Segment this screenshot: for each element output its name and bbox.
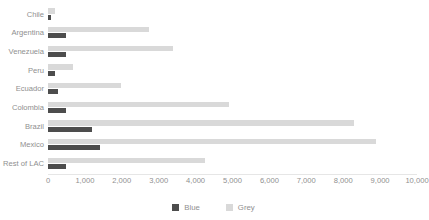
bar-group bbox=[48, 99, 417, 118]
legend-label: Blue bbox=[184, 203, 200, 212]
category-label: Argentina bbox=[0, 28, 44, 37]
legend-swatch-icon bbox=[226, 204, 233, 211]
bar-blue bbox=[48, 89, 58, 94]
x-axis-tick-labels: 01,0002,0003,0004,0005,0006,0007,0008,00… bbox=[48, 176, 417, 188]
legend-swatch-icon bbox=[172, 204, 179, 211]
bar-blue bbox=[48, 145, 100, 150]
bar-blue bbox=[48, 71, 55, 76]
bar-grey bbox=[48, 158, 205, 163]
x-tick-label: 7,000 bbox=[297, 176, 316, 186]
bar-blue bbox=[48, 108, 66, 113]
bar-blue bbox=[48, 127, 92, 132]
legend-item[interactable]: Blue bbox=[172, 203, 200, 212]
x-tick-label: 1,000 bbox=[75, 176, 94, 186]
bar-group bbox=[48, 137, 417, 156]
x-tick-label: 8,000 bbox=[334, 176, 353, 186]
category-label: Rest of LAC bbox=[0, 159, 44, 168]
bar-group bbox=[48, 62, 417, 81]
x-tick-label: 10,000 bbox=[405, 176, 428, 186]
category-label: Colombia bbox=[0, 103, 44, 112]
bar-group bbox=[48, 118, 417, 137]
category-label: Venezuela bbox=[0, 47, 44, 56]
x-tick-label: 3,000 bbox=[149, 176, 168, 186]
bar-grey bbox=[48, 46, 173, 51]
x-tick-label: 9,000 bbox=[371, 176, 390, 186]
bar-grey bbox=[48, 139, 376, 144]
bar-blue bbox=[48, 33, 66, 38]
category-label: Brazil bbox=[0, 122, 44, 131]
category-axis-labels: ChileArgentinaVenezuelaPeruEcuadorColomb… bbox=[0, 6, 44, 174]
category-label: Peru bbox=[0, 66, 44, 75]
x-tick-label: 2,000 bbox=[112, 176, 131, 186]
bar-grey bbox=[48, 102, 229, 107]
legend-label: Grey bbox=[238, 203, 255, 212]
x-axis-line bbox=[48, 174, 417, 175]
bar-blue bbox=[48, 164, 66, 169]
bar-grey bbox=[48, 8, 55, 13]
bar-group bbox=[48, 155, 417, 174]
x-tick-label: 5,000 bbox=[223, 176, 242, 186]
x-tick-label: 4,000 bbox=[186, 176, 205, 186]
plot-area bbox=[48, 6, 417, 174]
x-tick-label: 6,000 bbox=[260, 176, 279, 186]
bar-group bbox=[48, 6, 417, 25]
category-label: Ecuador bbox=[0, 84, 44, 93]
category-label: Mexico bbox=[0, 140, 44, 149]
x-tick-label: 0 bbox=[46, 176, 50, 186]
bar-grey bbox=[48, 83, 121, 88]
category-label: Chile bbox=[0, 10, 44, 19]
bar-group bbox=[48, 81, 417, 100]
chart-legend: BlueGrey bbox=[0, 200, 427, 214]
bar-blue bbox=[48, 15, 51, 20]
legend-item[interactable]: Grey bbox=[226, 203, 255, 212]
bar-grey bbox=[48, 27, 149, 32]
bar-group bbox=[48, 43, 417, 62]
bar-grey bbox=[48, 64, 73, 69]
bar-blue bbox=[48, 52, 66, 57]
bar-grey bbox=[48, 120, 354, 125]
bar-group bbox=[48, 25, 417, 44]
